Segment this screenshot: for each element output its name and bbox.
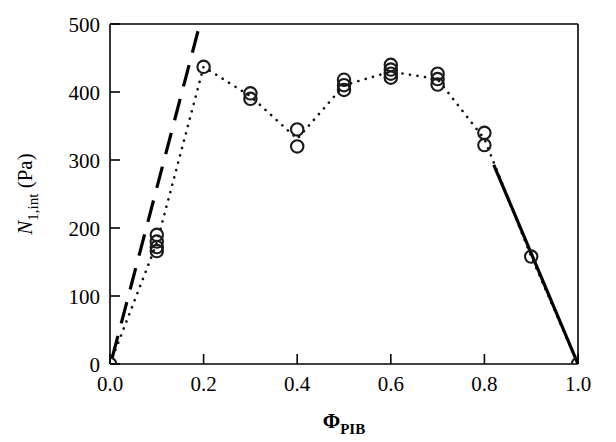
trend-dotted-line — [110, 67, 578, 364]
y-tick-label: 400 — [69, 81, 101, 105]
x-axis-subscript: PIB — [340, 421, 365, 437]
x-axis-ticks — [110, 354, 578, 364]
x-axis-title: ΦPIB — [323, 409, 365, 437]
y-axis-symbol: N — [13, 220, 37, 236]
y-tick-labels: 500 400 300 200 100 0 — [69, 13, 101, 377]
y-tick-label: 500 — [69, 13, 101, 37]
x-tick-label: 0.8 — [471, 372, 497, 396]
y-axis-title: N1,int (Pa) — [13, 153, 41, 235]
x-tick-label: 0.0 — [97, 372, 123, 396]
y-tick-label: 300 — [69, 149, 101, 173]
data-point-marker — [291, 123, 303, 135]
y-axis-units: (Pa) — [13, 153, 37, 188]
y-tick-label: 200 — [69, 217, 101, 241]
x-tick-label: 1.0 — [565, 372, 591, 396]
x-tick-labels: 0.0 0.2 0.4 0.6 0.8 1.0 — [97, 372, 591, 396]
y-axis-ticks — [110, 24, 120, 364]
data-point-marker — [291, 140, 303, 152]
solid-limit-line — [494, 165, 578, 364]
x-tick-label: 0.4 — [284, 372, 311, 396]
x-tick-label: 0.2 — [190, 372, 216, 396]
y-axis-subscript: 1,int — [25, 193, 41, 221]
data-point-marker — [478, 127, 490, 139]
x-tick-label: 0.6 — [378, 372, 404, 396]
y-tick-label: 100 — [69, 285, 101, 309]
dashed-limit-line — [112, 24, 200, 357]
figure-container: 500 400 300 200 100 0 0.0 0.2 0.4 0.6 0.… — [0, 0, 616, 442]
x-axis-symbol: Φ — [323, 409, 340, 433]
data-series-layer — [104, 24, 584, 370]
scatter-plot: 500 400 300 200 100 0 0.0 0.2 0.4 0.6 0.… — [0, 0, 616, 442]
